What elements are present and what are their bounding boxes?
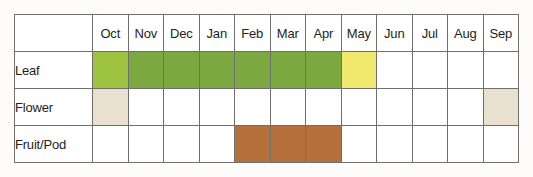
table-row: Leaf: [15, 52, 519, 89]
cell-fruit-feb: [235, 126, 271, 163]
column-header-nov: Nov: [128, 15, 164, 52]
cell-flower-jan: [199, 89, 235, 126]
cell-fruit-aug: [448, 126, 484, 163]
cell-fruit-oct: [93, 126, 129, 163]
cell-fruit-apr: [306, 126, 342, 163]
cell-leaf-sep: [483, 52, 519, 89]
cell-fruit-mar: [270, 126, 306, 163]
header-row: Oct Nov Dec Jan Feb Mar Apr May Jun Jul …: [15, 15, 519, 52]
cell-flower-jun: [377, 89, 413, 126]
column-header-apr: Apr: [306, 15, 342, 52]
column-header-jul: Jul: [412, 15, 448, 52]
cell-flower-sep: [483, 89, 519, 126]
table-row: Fruit/Pod: [15, 126, 519, 163]
column-header-feb: Feb: [235, 15, 271, 52]
corner-cell: [15, 15, 93, 52]
cell-leaf-jan: [199, 52, 235, 89]
cell-fruit-jan: [199, 126, 235, 163]
cell-flower-apr: [306, 89, 342, 126]
cell-flower-may: [341, 89, 377, 126]
cell-flower-feb: [235, 89, 271, 126]
cell-flower-nov: [128, 89, 164, 126]
cell-flower-jul: [412, 89, 448, 126]
table-body: Leaf Flower: [15, 52, 519, 163]
column-header-sep: Sep: [483, 15, 519, 52]
row-label-fruit-pod: Fruit/Pod: [15, 126, 93, 163]
cell-flower-oct: [93, 89, 129, 126]
cell-leaf-apr: [306, 52, 342, 89]
cell-flower-mar: [270, 89, 306, 126]
column-header-mar: Mar: [270, 15, 306, 52]
cell-flower-dec: [164, 89, 200, 126]
phenology-chart: Oct Nov Dec Jan Feb Mar Apr May Jun Jul …: [14, 14, 518, 161]
cell-fruit-jul: [412, 126, 448, 163]
cell-leaf-aug: [448, 52, 484, 89]
cell-leaf-oct: [93, 52, 129, 89]
table-row: Flower: [15, 89, 519, 126]
cell-flower-aug: [448, 89, 484, 126]
cell-fruit-jun: [377, 126, 413, 163]
cell-leaf-mar: [270, 52, 306, 89]
row-label-flower: Flower: [15, 89, 93, 126]
cell-fruit-nov: [128, 126, 164, 163]
cell-leaf-nov: [128, 52, 164, 89]
cell-leaf-feb: [235, 52, 271, 89]
cell-leaf-dec: [164, 52, 200, 89]
column-header-oct: Oct: [93, 15, 129, 52]
cell-leaf-may: [341, 52, 377, 89]
cell-fruit-may: [341, 126, 377, 163]
column-header-may: May: [341, 15, 377, 52]
cell-fruit-sep: [483, 126, 519, 163]
table-header: Oct Nov Dec Jan Feb Mar Apr May Jun Jul …: [15, 15, 519, 52]
cell-leaf-jul: [412, 52, 448, 89]
cell-leaf-jun: [377, 52, 413, 89]
row-label-leaf: Leaf: [15, 52, 93, 89]
column-header-jan: Jan: [199, 15, 235, 52]
column-header-dec: Dec: [164, 15, 200, 52]
column-header-jun: Jun: [377, 15, 413, 52]
column-header-aug: Aug: [448, 15, 484, 52]
phenology-table: Oct Nov Dec Jan Feb Mar Apr May Jun Jul …: [14, 14, 519, 163]
cell-fruit-dec: [164, 126, 200, 163]
